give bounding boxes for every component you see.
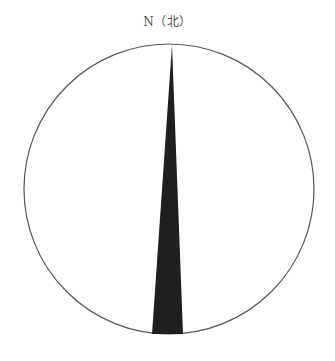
- north-needle: [152, 45, 183, 334]
- compass-diagram: [0, 0, 335, 361]
